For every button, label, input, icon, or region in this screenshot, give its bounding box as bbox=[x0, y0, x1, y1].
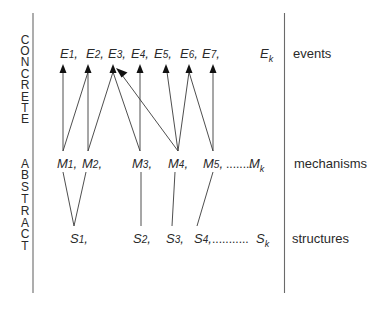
edge-m4-e6 bbox=[178, 72, 189, 151]
mechanism-event-edges bbox=[63, 72, 213, 151]
event-node-e3: E3, bbox=[108, 46, 126, 61]
edge-m5-e6 bbox=[189, 72, 213, 151]
events-row-label: events bbox=[293, 46, 332, 61]
arrowhead-icon bbox=[163, 64, 170, 73]
event-node-ek: Ek bbox=[260, 46, 274, 64]
edge-s3-m4 bbox=[172, 172, 175, 226]
structures-row-label: structures bbox=[292, 231, 350, 246]
arrowhead-icon bbox=[137, 64, 144, 73]
edge-m1-e2 bbox=[63, 72, 88, 151]
events-row: E1, E2, E3, E4, E5, E6, E7, Ek bbox=[60, 46, 274, 64]
event-node-e5: E5, bbox=[154, 46, 172, 61]
structure-mechanism-edges bbox=[63, 172, 213, 226]
arrowheads bbox=[60, 64, 217, 78]
event-node-e2: E2, bbox=[86, 46, 104, 61]
edge-m3-e3 bbox=[113, 72, 140, 151]
abstract-letter: T bbox=[21, 239, 29, 253]
mechanism-node-mk: Mk bbox=[249, 156, 265, 174]
edge-m4-e5 bbox=[167, 72, 178, 151]
concrete-letter: E bbox=[21, 112, 29, 126]
structure-node-s4: S4, bbox=[194, 231, 212, 246]
arrowhead-icon bbox=[210, 64, 217, 73]
mechanism-node-m4: M4, bbox=[168, 156, 188, 171]
event-node-e1: E1, bbox=[60, 46, 78, 61]
structures-row: S1, S2, S3, S4, ........... Sk bbox=[70, 231, 270, 249]
edge-m4-e3 bbox=[122, 75, 178, 151]
event-node-e6: E6, bbox=[180, 46, 198, 61]
arrowhead-icon bbox=[186, 64, 193, 73]
mechanism-node-m5: M5, bbox=[203, 156, 223, 171]
mechanism-node-m3: M3, bbox=[132, 156, 152, 171]
edge-s1-m1 bbox=[63, 172, 74, 226]
concrete-vertical-label: C O N C R E T E bbox=[20, 33, 29, 127]
mechanisms-row: M1, M2, M3, M4, M5, ........ Mk bbox=[57, 156, 265, 174]
structure-node-sk: Sk bbox=[256, 231, 270, 249]
structures-ellipsis: ........... bbox=[212, 232, 249, 246]
event-node-e7: E7, bbox=[202, 46, 220, 61]
abstract-vertical-label: A B S T R A C T bbox=[21, 157, 30, 254]
mechanism-node-m1: M1, bbox=[57, 156, 77, 171]
arrowhead-icon bbox=[60, 64, 67, 73]
mechanisms-row-label: mechanisms bbox=[294, 156, 367, 171]
concrete-abstract-diagram: C O N C R E T E A B S T R A C T E1, E2, … bbox=[0, 0, 377, 310]
edge-m2-e3 bbox=[88, 72, 113, 151]
structure-node-s3: S3, bbox=[166, 231, 184, 246]
arrowhead-icon bbox=[110, 64, 117, 73]
mechanism-node-m2: M2, bbox=[82, 156, 102, 171]
event-node-e4: E4, bbox=[131, 46, 149, 61]
structure-node-s1: S1, bbox=[70, 231, 88, 246]
structure-node-s2: S2, bbox=[133, 231, 151, 246]
edge-s1-m2 bbox=[74, 172, 86, 226]
edge-s4-m5 bbox=[197, 172, 213, 226]
diagonal-arrowhead-icon bbox=[116, 68, 128, 78]
arrowhead-icon bbox=[85, 64, 92, 73]
